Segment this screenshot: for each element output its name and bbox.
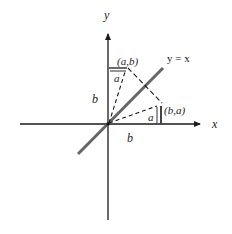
origin-point xyxy=(106,122,110,126)
reflection-diagram: y x y = x (a,b) (b,a) a b a b xyxy=(0,0,232,234)
diagonal-label: y = x xyxy=(167,52,190,64)
x-axis-label: x xyxy=(211,117,218,131)
ab-vertical-label: b xyxy=(92,92,98,106)
ab-horizontal-label: a xyxy=(114,72,120,84)
ba-horizontal-label: b xyxy=(127,131,133,145)
diagram-canvas: y x y = x (a,b) (b,a) a b a b xyxy=(0,0,232,234)
ba-vertical-label: a xyxy=(148,111,154,123)
point-ba-label: (b,a) xyxy=(164,104,185,117)
point-ab-label: (a,b) xyxy=(117,55,138,68)
y-axis-label: y xyxy=(103,8,110,22)
